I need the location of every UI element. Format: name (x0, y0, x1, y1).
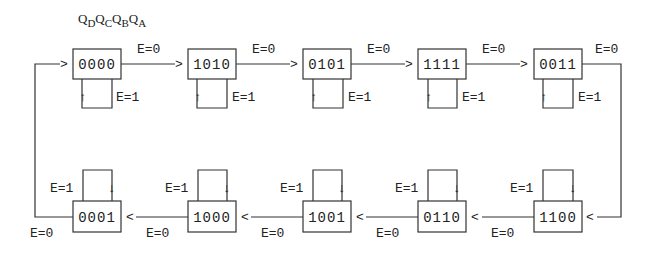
state-node-0110: 0110 ↓ E=1 (395, 170, 466, 232)
transition-label: E=0 (367, 42, 390, 57)
right-arrow-icon: > (175, 57, 183, 72)
left-arrow-icon: < (241, 210, 249, 225)
hold-label: E=1 (232, 90, 256, 105)
left-arrow-icon: < (126, 210, 134, 225)
transition-label: E=0 (595, 42, 618, 57)
transition-label: E=0 (137, 42, 160, 57)
state-node-1100: 1100 ↓ E=1 (510, 170, 582, 232)
right-arrow-icon: > (520, 57, 528, 72)
transition-label: E=0 (252, 42, 275, 57)
hold-label: E=1 (280, 181, 304, 196)
hold-label: E=1 (165, 181, 189, 196)
state-node-0011: 0011 ↑ E=1 (534, 49, 602, 108)
svg-text:1100: 1100 (539, 210, 577, 226)
svg-text:1001: 1001 (308, 210, 346, 226)
svg-text:0000: 0000 (78, 57, 116, 73)
svg-text:1010: 1010 (193, 57, 231, 73)
hold-label: E=1 (578, 90, 602, 105)
svg-text:1000: 1000 (193, 210, 231, 226)
state-node-0101: 0101 ↑ E=1 (303, 49, 372, 108)
transition-label: E=0 (482, 42, 505, 57)
svg-text:0101: 0101 (308, 57, 346, 73)
transition-label: E=0 (146, 226, 169, 241)
hold-label: E=1 (395, 181, 419, 196)
transition-label: E=0 (376, 226, 399, 241)
transition-label: E=0 (261, 226, 284, 241)
right-arrow-icon: > (60, 57, 68, 72)
up-arrow-icon: ↑ (310, 90, 318, 105)
down-arrow-icon: ↓ (108, 181, 116, 196)
hold-label: E=1 (116, 90, 140, 105)
svg-text:0110: 0110 (423, 210, 461, 226)
state-node-0000: 0000 ↑ E=1 (73, 49, 140, 108)
state-node-1000: 1000 ↓ E=1 (165, 170, 236, 232)
left-arrow-icon: < (586, 210, 594, 225)
down-arrow-icon: ↓ (569, 181, 577, 196)
state-node-1111: 1111 ↑ E=1 (418, 49, 486, 108)
svg-text:1111: 1111 (423, 57, 461, 73)
hold-label: E=1 (348, 90, 372, 105)
down-arrow-icon: ↓ (338, 181, 346, 196)
hold-label: E=1 (510, 181, 534, 196)
svg-text:0001: 0001 (78, 210, 116, 226)
right-arrow-icon: > (290, 57, 298, 72)
hold-label: E=1 (462, 90, 486, 105)
state-node-1010: 1010 ↑ E=1 (188, 49, 256, 108)
left-arrow-icon: < (356, 210, 364, 225)
hold-label: E=1 (50, 181, 74, 196)
down-arrow-icon: ↓ (453, 181, 461, 196)
up-arrow-icon: ↑ (79, 90, 87, 105)
right-arrow-icon: > (405, 57, 413, 72)
up-arrow-icon: ↑ (425, 90, 433, 105)
up-arrow-icon: ↑ (540, 90, 548, 105)
up-arrow-icon: ↑ (194, 90, 202, 105)
transition-0011-1100 (582, 64, 621, 217)
state-diagram: QDQCQBQA 0000 ↑ E=1 > E=0 1010 ↑ E=1 > E… (0, 0, 654, 253)
state-node-1001: 1001 ↓ E=1 (280, 170, 351, 232)
state-bit-order-header: QDQCQBQA (78, 11, 146, 29)
down-arrow-icon: ↓ (223, 181, 231, 196)
transition-label: E=0 (491, 226, 514, 241)
state-node-0001: 0001 ↓ E=1 (50, 170, 121, 232)
svg-text:0011: 0011 (539, 57, 577, 73)
transition-label: E=0 (30, 226, 53, 241)
left-arrow-icon: < (471, 210, 479, 225)
